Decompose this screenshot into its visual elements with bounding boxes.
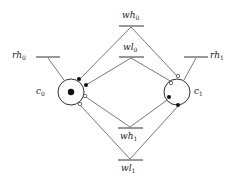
arc-rh1-c1 [184, 58, 196, 80]
label-wh1: wh1 [120, 131, 137, 142]
label-wl1: wl1 [121, 163, 135, 174]
arc-wh0-c0 [79, 27, 131, 80]
arc-wl0-c0 [86, 58, 131, 85]
label-c0: c0 [36, 86, 45, 97]
arc-wl1-c1 [130, 105, 179, 159]
arc-wh1-c1 [130, 98, 170, 127]
arc-wh0-c1 [131, 27, 178, 77]
hollow-dot-wl0-c1 [169, 81, 172, 84]
place-c1-circle[interactable] [164, 79, 190, 105]
filled-dot-wl1-c1 [176, 103, 180, 107]
label-wh0: wh0 [122, 10, 140, 21]
arc-rh0-c0 [48, 58, 64, 80]
hollow-dot-wl1-c0 [78, 102, 81, 105]
token-c0 [68, 89, 74, 95]
hollow-dot-wh0-c1 [176, 74, 179, 77]
hollow-dot-wh1-c0 [83, 94, 86, 97]
arc-wl0-c1 [131, 58, 172, 82]
label-rh1: rh1 [210, 50, 224, 61]
arc-wh1-c0 [86, 97, 130, 127]
label-rh0: rh0 [12, 50, 26, 61]
place-c1[interactable] [164, 79, 190, 105]
filled-dot-wh1-c1 [167, 95, 171, 99]
filled-dot-wl0-c0 [84, 83, 88, 87]
label-wl0: wl0 [123, 42, 138, 53]
filled-dot-wh0-c0 [77, 77, 81, 81]
petri-net-diagram: wh0 wl0 wh1 wl1 rh0 rh1 c0 c1 [0, 0, 244, 178]
label-c1: c1 [194, 86, 203, 97]
place-c0[interactable] [58, 79, 84, 105]
